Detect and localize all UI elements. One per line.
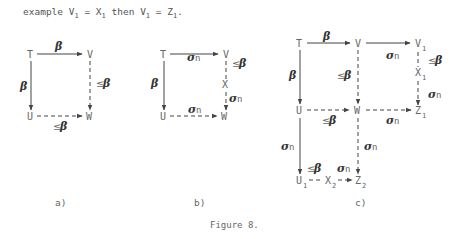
svg-text:β: β: [102, 77, 111, 90]
svg-text:n: n: [372, 142, 377, 152]
svg-text:β: β: [313, 162, 322, 175]
svg-text:1: 1: [422, 74, 426, 82]
node-X2: X: [325, 175, 331, 186]
svg-text:2: 2: [362, 182, 366, 190]
node-X1: X: [415, 67, 421, 78]
diagram-a: T V U W β β ≤β ≤β: [19, 40, 111, 133]
svg-text:n: n: [394, 51, 399, 61]
node-U1: U: [296, 175, 302, 186]
svg-text:1: 1: [303, 182, 307, 190]
svg-text:n: n: [394, 116, 399, 126]
svg-text:n: n: [436, 90, 441, 100]
panel-label-b: b): [194, 197, 205, 208]
svg-text:β: β: [328, 114, 337, 127]
svg-text:1: 1: [422, 45, 426, 53]
node-W: W: [221, 111, 228, 122]
diagram-c: T V V1 X1 U W Z1 U1 X2 Z2 β σn β ≤β ≤β σ…: [281, 30, 443, 190]
svg-text:n: n: [289, 142, 294, 152]
svg-text:β: β: [288, 69, 297, 82]
svg-text:1: 1: [422, 112, 426, 120]
node-Z2: Z: [355, 175, 361, 186]
svg-text:β: β: [322, 30, 331, 43]
node-T: T: [160, 49, 166, 60]
svg-text:β: β: [434, 54, 443, 67]
figure-caption: Figure 8.: [210, 220, 259, 230]
node-X: X: [222, 79, 228, 90]
figure-8-diagrams: T V U W β β ≤β ≤β T V X U W σn β ≤β σn σ…: [0, 0, 460, 239]
node-T: T: [296, 38, 302, 49]
node-T: T: [27, 49, 33, 60]
node-V: V: [355, 38, 361, 49]
svg-text:β: β: [59, 120, 68, 133]
node-V: V: [87, 49, 93, 60]
svg-text:n: n: [345, 164, 350, 174]
svg-text:n: n: [196, 105, 201, 115]
svg-text:β: β: [19, 80, 28, 93]
diagram-b: T V X U W σn β ≤β σn σn: [150, 49, 247, 122]
node-V: V: [223, 49, 229, 60]
node-Z1: Z: [415, 105, 421, 116]
svg-text:n: n: [237, 94, 242, 104]
svg-text:β: β: [343, 69, 352, 82]
node-W: W: [86, 111, 93, 122]
node-W: W: [354, 105, 361, 116]
node-V1: V: [415, 38, 421, 49]
svg-text:n: n: [195, 53, 200, 63]
node-U: U: [296, 105, 302, 116]
svg-text:β: β: [238, 57, 247, 70]
panel-label-c: c): [355, 197, 366, 208]
svg-text:2: 2: [332, 182, 336, 190]
svg-text:β: β: [150, 77, 159, 90]
panel-label-a: a): [55, 197, 66, 208]
node-U: U: [27, 111, 33, 122]
node-U: U: [160, 111, 166, 122]
svg-text:β: β: [54, 40, 63, 53]
